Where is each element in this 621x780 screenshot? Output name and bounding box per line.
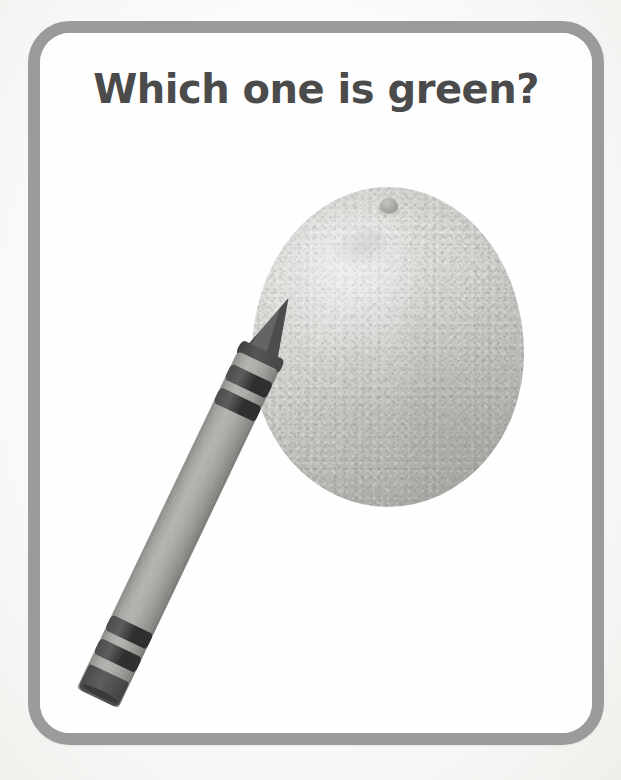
question-card-frame: Which one is green? [28, 21, 604, 745]
choice-orange[interactable] [252, 187, 524, 507]
worksheet-page: Which one is green? [0, 0, 621, 780]
question-card-inner: Which one is green? [40, 33, 592, 733]
question-title: Which one is green? [40, 69, 592, 109]
